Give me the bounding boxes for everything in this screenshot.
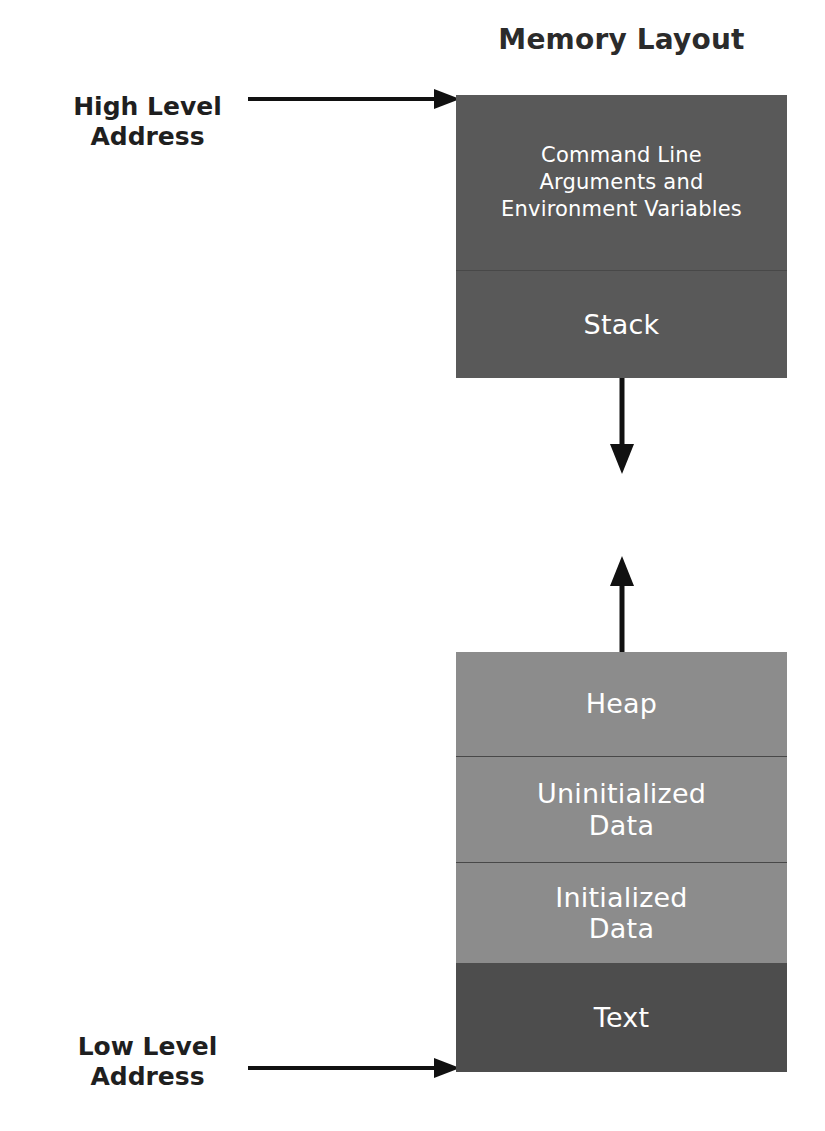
segment-command-line-arguments-label: Command Line Arguments and Environment V…: [462, 142, 781, 223]
stack-grows-down-arrow-icon: [607, 378, 637, 474]
segment-initialized-data-label: Initialized Data: [462, 882, 781, 945]
low-address-label-line1: Low Level: [40, 1032, 255, 1062]
segment-stack: Stack: [456, 270, 787, 378]
segment-uninitialized-data: Uninitialized Data: [456, 756, 787, 862]
page-title: Memory Layout: [456, 23, 787, 56]
segment-args-line3: Environment Variables: [462, 196, 781, 223]
segment-args-line2: Arguments and: [462, 169, 781, 196]
segment-uninitialized-line2: Data: [462, 810, 781, 841]
high-address-arrow-icon: [248, 87, 460, 111]
segment-heap-label: Heap: [462, 688, 781, 719]
high-address-label-line2: Address: [40, 122, 255, 152]
segment-uninitialized-data-label: Uninitialized Data: [462, 778, 781, 841]
memory-column: Command Line Arguments and Environment V…: [456, 95, 787, 1072]
low-address-label: Low Level Address: [40, 1032, 255, 1091]
segment-text-label: Text: [462, 1002, 781, 1033]
memory-layout-diagram: Memory Layout High Level Address Low Lev…: [0, 0, 825, 1131]
segment-args-line1: Command Line: [462, 142, 781, 169]
segment-text: Text: [456, 963, 787, 1072]
high-address-label-line1: High Level: [40, 92, 255, 122]
heap-grows-up-arrow-icon: [607, 556, 637, 652]
segment-initialized-data: Initialized Data: [456, 862, 787, 963]
segment-command-line-arguments: Command Line Arguments and Environment V…: [456, 95, 787, 270]
segment-stack-label: Stack: [462, 309, 781, 340]
segment-initialized-line2: Data: [462, 913, 781, 944]
low-address-label-line2: Address: [40, 1062, 255, 1092]
segment-uninitialized-line1: Uninitialized: [462, 778, 781, 809]
low-address-arrow-icon: [248, 1056, 460, 1080]
segment-initialized-line1: Initialized: [462, 882, 781, 913]
segment-heap: Heap: [456, 652, 787, 756]
high-address-label: High Level Address: [40, 92, 255, 151]
segment-free-space: [456, 378, 787, 652]
